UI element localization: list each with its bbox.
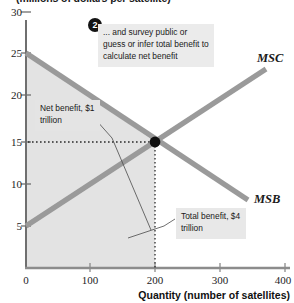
y-tick-label-5: 5 bbox=[2, 220, 22, 232]
equilibrium-point-marker bbox=[150, 137, 161, 148]
msc-curve-label: MSC bbox=[257, 51, 283, 66]
x-tick-label-400: 400 bbox=[275, 274, 292, 286]
x-tick-label-100: 100 bbox=[82, 274, 99, 286]
x-tick-label-300: 300 bbox=[212, 274, 229, 286]
annotation-net-benefit: Net benefit, $1 trillion bbox=[35, 100, 100, 131]
y-tick-label-25: 25 bbox=[2, 47, 22, 59]
y-tick-label-20: 20 bbox=[2, 89, 22, 101]
annotation-total-benefit: Total benefit, $4 trillion bbox=[176, 208, 246, 239]
x-axis-title: Quantity (number of satellites) bbox=[138, 289, 290, 301]
x-tick-label-0: 0 bbox=[23, 274, 29, 286]
y-tick-label-10: 10 bbox=[2, 178, 22, 190]
msb-curve-label: MSB bbox=[254, 192, 280, 207]
y-tick-label-15: 15 bbox=[2, 136, 22, 148]
x-tick-label-200: 200 bbox=[147, 274, 164, 286]
y-tick-label-30: 30 bbox=[2, 6, 22, 18]
annotation-step-2: ... and survey public or guess or infer … bbox=[98, 24, 214, 67]
chart-figure: (millions of dollars per satellite) bbox=[0, 0, 294, 303]
